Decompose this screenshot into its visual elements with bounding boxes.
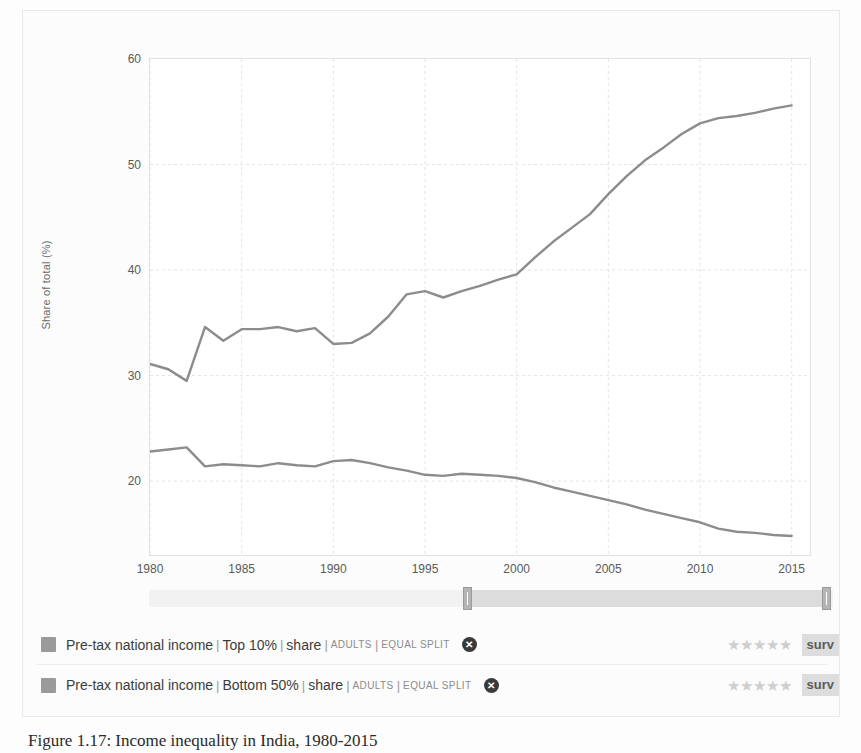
source-badge[interactable]: surv (802, 634, 839, 656)
chart-svg (150, 59, 810, 555)
page-background: Share of total (%) 203040506019801985199… (0, 0, 861, 753)
remove-series-icon[interactable]: ✕ (484, 678, 499, 693)
separator: | (302, 678, 305, 693)
figure-caption: Figure 1.17: Income inequality in India,… (28, 731, 377, 751)
series-percentile: Top 10% (222, 637, 276, 653)
series-population: ADULTS (331, 639, 372, 650)
slider-selected-range[interactable] (467, 590, 826, 607)
x-tick-label: 1990 (320, 562, 347, 576)
series-percentile: Bottom 50% (222, 677, 298, 693)
x-tick-label: 1985 (228, 562, 255, 576)
quality-rating-stars-icon[interactable]: ★★★★★ (727, 637, 792, 652)
year-range-slider[interactable] (149, 587, 833, 609)
slider-handle-right[interactable] (822, 587, 831, 610)
x-tick-label: 2000 (503, 562, 530, 576)
remove-series-icon[interactable]: ✕ (462, 637, 477, 652)
quality-rating-stars-icon[interactable]: ★★★★★ (727, 678, 792, 693)
series-name: Pre-tax national income (66, 677, 213, 693)
legend-row-meta: ★★★★★surv (727, 634, 823, 656)
series-color-swatch[interactable] (41, 637, 56, 652)
slider-handle-left[interactable] (463, 587, 472, 610)
x-tick-label: 2005 (595, 562, 622, 576)
series-measure: share (308, 677, 343, 693)
separator: | (375, 637, 378, 652)
separator: | (346, 678, 349, 693)
plot-area: 2030405060198019851990199520002005201020… (149, 58, 811, 556)
y-tick-label: 30 (128, 369, 141, 383)
x-tick-label: 2015 (778, 562, 805, 576)
separator: | (216, 678, 219, 693)
chart-region: Share of total (%) 203040506019801985199… (23, 11, 841, 611)
legend-row[interactable]: Pre-tax national income|Top 10%|share|AD… (37, 625, 827, 665)
separator: | (280, 637, 283, 652)
legend-row[interactable]: Pre-tax national income|Bottom 50%|share… (37, 665, 827, 705)
x-tick-label: 1980 (137, 562, 164, 576)
y-tick-label: 20 (128, 474, 141, 488)
y-tick-label: 40 (128, 263, 141, 277)
legend-list: Pre-tax national income|Top 10%|share|AD… (37, 625, 827, 705)
source-badge[interactable]: surv (802, 674, 839, 696)
x-tick-label: 2010 (687, 562, 714, 576)
separator: | (324, 637, 327, 652)
series-line-2 (150, 447, 792, 536)
series-name: Pre-tax national income (66, 637, 213, 653)
separator: | (397, 678, 400, 693)
y-axis-title: Share of total (%) (40, 215, 52, 355)
y-tick-label: 50 (128, 158, 141, 172)
x-tick-label: 1995 (412, 562, 439, 576)
series-measure: share (286, 637, 321, 653)
series-split: EQUAL SPLIT (381, 639, 450, 650)
series-line-1 (150, 105, 792, 380)
series-color-swatch[interactable] (41, 678, 56, 693)
legend-row-meta: ★★★★★surv (727, 674, 823, 696)
series-population: ADULTS (353, 680, 394, 691)
series-split: EQUAL SPLIT (403, 680, 472, 691)
chart-widget: Share of total (%) 203040506019801985199… (22, 10, 840, 717)
y-tick-label: 60 (128, 52, 141, 66)
separator: | (216, 637, 219, 652)
